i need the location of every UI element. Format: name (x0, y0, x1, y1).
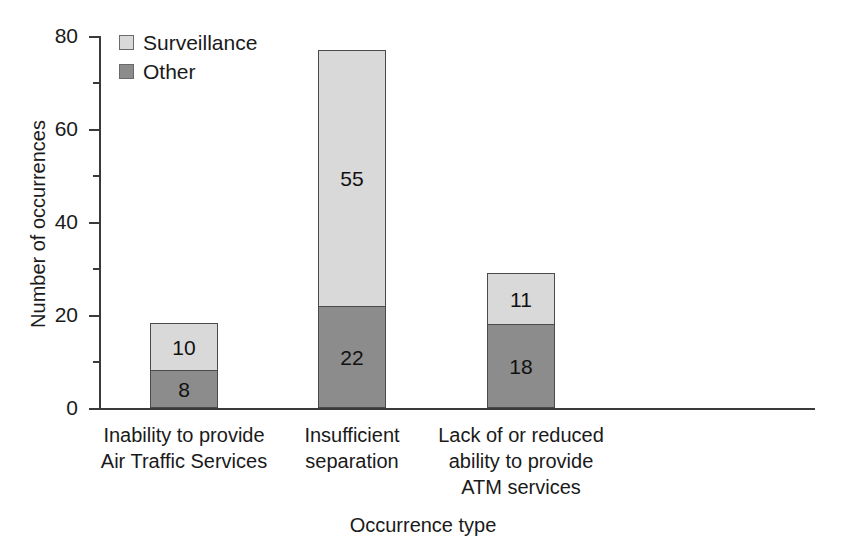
legend: Surveillance Other (119, 28, 257, 86)
x-axis-title: Occurrence type (0, 513, 846, 537)
legend-label: Surveillance (143, 32, 257, 53)
y-tick-label-80: 80 (16, 25, 78, 46)
y-tick-50 (93, 175, 99, 177)
y-tick-10 (93, 361, 99, 363)
legend-item-surveillance[interactable]: Surveillance (119, 28, 257, 57)
y-tick-20 (89, 315, 99, 317)
y-tick-60 (89, 129, 99, 131)
y-tick-0 (89, 408, 99, 410)
bar-segment-surveillance[interactable]: 11 (487, 273, 555, 324)
legend-item-other[interactable]: Other (119, 57, 257, 86)
y-axis-title: Number of occurrences (26, 64, 50, 384)
x-category-label-3: Lack of or reduced ability to provide AT… (411, 422, 631, 500)
plot-area: 80 60 40 20 0 10 8 55 22 11 (0, 0, 846, 559)
y-tick-label-0: 0 (16, 397, 78, 418)
bar-value-label: 55 (340, 168, 363, 189)
bar-value-label: 8 (178, 379, 190, 400)
bar-stack-inability-to-provide-air-traffic-services[interactable]: 10 8 (150, 323, 218, 408)
y-tick-80 (89, 36, 99, 38)
y-tick-30 (93, 268, 99, 270)
y-tick-70 (93, 82, 99, 84)
legend-swatch-icon (119, 64, 134, 79)
x-axis-line (99, 408, 815, 410)
bar-segment-surveillance[interactable]: 55 (318, 50, 386, 306)
legend-swatch-icon (119, 35, 134, 50)
bar-value-label: 22 (340, 347, 363, 368)
bar-value-label: 10 (172, 337, 195, 358)
bar-segment-other[interactable]: 22 (318, 306, 386, 408)
legend-label: Other (143, 61, 196, 82)
bar-value-label: 18 (509, 356, 532, 377)
bar-value-label: 11 (510, 289, 532, 310)
stacked-bar-chart: 80 60 40 20 0 10 8 55 22 11 (0, 0, 846, 559)
bar-segment-surveillance[interactable]: 10 (150, 323, 218, 370)
bar-segment-other[interactable]: 18 (487, 324, 555, 408)
y-tick-40 (89, 222, 99, 224)
y-axis-line (99, 36, 101, 410)
bar-stack-insufficient-separation[interactable]: 55 22 (318, 50, 386, 408)
bar-segment-other[interactable]: 8 (150, 370, 218, 408)
bar-stack-lack-of-or-reduced-ability-to-provide-atm-services[interactable]: 11 18 (487, 273, 555, 408)
